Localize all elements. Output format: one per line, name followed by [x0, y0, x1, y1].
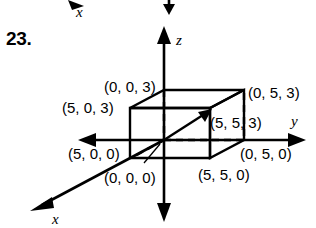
- previous-axis-arrowhead: [163, 4, 175, 15]
- x-axis-arrowhead: [30, 197, 54, 211]
- coordinate-box-figure: x z y x: [0, 0, 316, 228]
- previous-figure-remnant: x: [68, 0, 175, 20]
- z-axis-arrowhead-down: [157, 203, 171, 222]
- previous-x-axis-label: x: [75, 4, 83, 20]
- vertex-label-0-0-3: (0, 0, 3): [104, 78, 156, 95]
- vertex-label-0-5-3: (0, 5, 3): [248, 84, 300, 101]
- vertex-label-5-5-3: (5, 5, 3): [210, 114, 262, 131]
- y-axis-label: y: [289, 113, 298, 129]
- vertex-label-5-5-0: (5, 5, 0): [198, 166, 250, 183]
- axes-group: z y x: [30, 26, 306, 227]
- vertex-label-0-0-0: (0, 0, 0): [104, 169, 156, 186]
- figure-page: 23. x z y x: [0, 0, 316, 228]
- diagonal-vector-arrow: [164, 109, 212, 140]
- vertex-labels-group: (0, 0, 3) (5, 0, 3) (0, 5, 3) (5, 5, 3) …: [62, 78, 300, 186]
- hidden-edge-origin-x: [133, 140, 164, 157]
- vertex-label-5-0-0: (5, 0, 0): [68, 145, 120, 162]
- z-axis-label: z: [175, 32, 182, 48]
- diagonal-arrow-line: [164, 115, 203, 140]
- z-axis-arrowhead-up: [157, 26, 171, 44]
- vertex-label-5-0-3: (5, 0, 3): [62, 99, 114, 116]
- vertex-label-0-5-0: (0, 5, 0): [240, 145, 292, 162]
- x-axis-label: x: [51, 211, 59, 227]
